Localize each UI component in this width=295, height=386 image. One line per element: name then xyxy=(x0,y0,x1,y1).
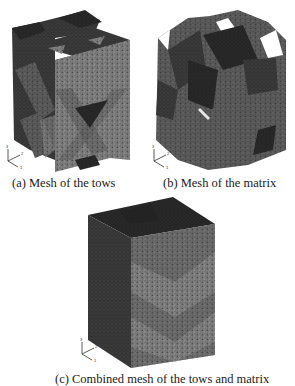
svg-text:3: 3 xyxy=(152,145,155,149)
svg-text:2: 2 xyxy=(21,151,24,156)
caption-c: (c) Combined mesh of the tows and matrix xyxy=(55,372,269,386)
axis-triad-icon: 3 2 1 xyxy=(78,338,102,362)
svg-text:1: 1 xyxy=(20,165,23,169)
axis-triad-icon: 3 2 1 xyxy=(150,145,174,169)
axis-triad-icon: 3 2 1 xyxy=(4,145,28,169)
svg-text:2: 2 xyxy=(95,344,98,349)
caption-b: (b) Mesh of the matrix xyxy=(163,176,276,190)
panel-a-tows-mesh: 3 2 1 xyxy=(0,0,150,172)
panel-b-matrix-mesh: 3 2 1 xyxy=(148,0,295,172)
svg-text:1: 1 xyxy=(94,358,97,362)
svg-text:1: 1 xyxy=(166,165,169,169)
svg-text:3: 3 xyxy=(6,145,9,149)
caption-a: (a) Mesh of the tows xyxy=(12,176,115,190)
svg-text:3: 3 xyxy=(80,338,83,342)
svg-text:2: 2 xyxy=(167,151,170,156)
